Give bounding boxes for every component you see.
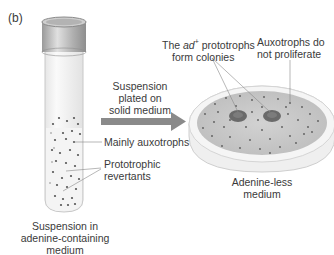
label-prototroph-colonies: The ad+ prototrophs form colonies	[162, 36, 255, 63]
plate-caption: Adenine-less medium	[220, 176, 304, 200]
petri-dish	[189, 86, 334, 172]
test-tube	[42, 17, 86, 212]
tube-caption: Suspension in adenine-containing medium	[10, 220, 120, 255]
label-auxotrophs-do-not-proliferate: Auxotrophs do not proliferate	[257, 36, 325, 60]
label-prototrophic-revertants: Prototrophic revertants	[104, 158, 161, 182]
arrow-label: Suspension plated on solid medium	[104, 80, 176, 116]
panel-label: (b)	[8, 12, 23, 24]
label-mainly-auxotrophs: Mainly auxotrophs	[104, 136, 189, 148]
